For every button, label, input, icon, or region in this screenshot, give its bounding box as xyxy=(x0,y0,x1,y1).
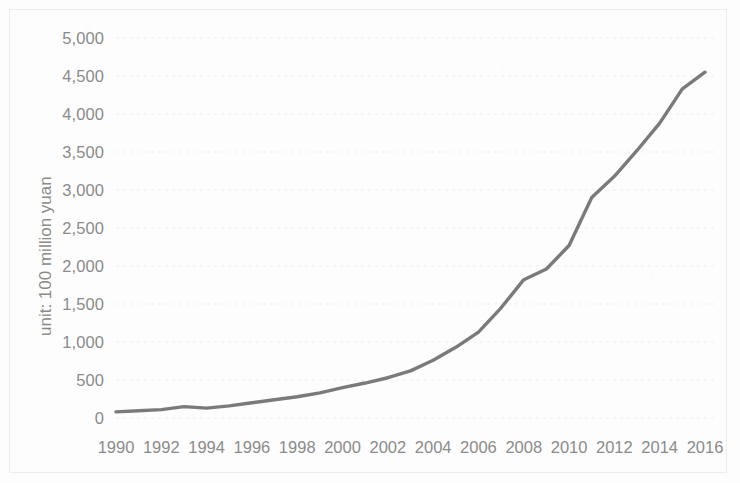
y-tick-label: 5,000 xyxy=(52,29,104,48)
y-axis-title: unit: 100 million yuan xyxy=(36,176,56,336)
y-tick-label: 4,000 xyxy=(52,105,104,124)
x-tick-label: 2016 xyxy=(687,438,724,457)
y-tick-label: 0 xyxy=(52,409,104,428)
y-tick-label: 4,500 xyxy=(52,67,104,86)
y-tick-label: 3,500 xyxy=(52,143,104,162)
x-tick-label: 1994 xyxy=(188,438,225,457)
series-line xyxy=(116,72,705,412)
plot-area xyxy=(0,0,740,483)
x-tick-label: 2000 xyxy=(324,438,361,457)
x-tick-label: 2002 xyxy=(369,438,406,457)
x-tick-label: 2010 xyxy=(551,438,588,457)
y-tick-label: 3,000 xyxy=(52,181,104,200)
x-tick-label: 1992 xyxy=(143,438,180,457)
x-tick-label: 1990 xyxy=(98,438,135,457)
y-tick-label: 500 xyxy=(52,371,104,390)
x-tick-label: 1998 xyxy=(279,438,316,457)
y-tick-label: 2,000 xyxy=(52,257,104,276)
y-tick-label: 1,500 xyxy=(52,295,104,314)
x-tick-label: 2008 xyxy=(505,438,542,457)
x-tick-label: 2012 xyxy=(596,438,633,457)
y-tick-label: 1,000 xyxy=(52,333,104,352)
data-series xyxy=(116,72,705,412)
x-tick-label: 2006 xyxy=(460,438,497,457)
x-tick-label: 1996 xyxy=(234,438,271,457)
y-tick-label: 2,500 xyxy=(52,219,104,238)
x-tick-label: 2014 xyxy=(641,438,678,457)
gridlines xyxy=(116,38,718,418)
x-tick-label: 2004 xyxy=(415,438,452,457)
line-chart: 5,0004,5004,0003,5003,0002,5002,0001,500… xyxy=(0,0,740,483)
